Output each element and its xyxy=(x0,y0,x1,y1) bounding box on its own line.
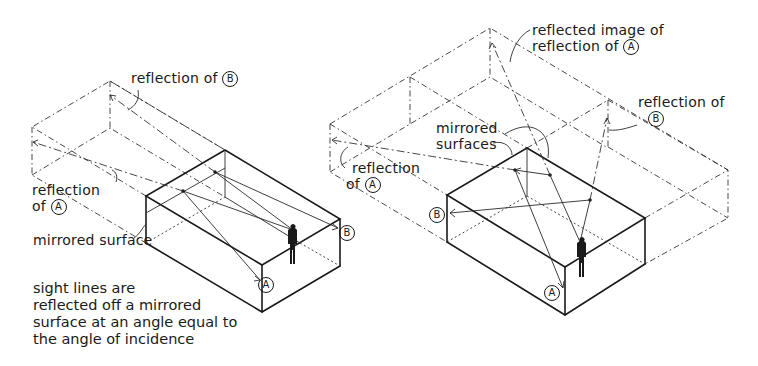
marker-a-icon: A xyxy=(623,39,639,55)
diagram-canvas: reflection of B reflection of A mirrored… xyxy=(0,0,758,366)
label-text: of xyxy=(346,176,360,192)
label-reflected-image-of-reflection: reflected image of reflection of A xyxy=(532,22,664,55)
marker-a-icon: A xyxy=(258,277,274,293)
caption-line: sight lines are xyxy=(33,280,237,297)
label-mirrored-surfaces: mirrored surfaces xyxy=(436,120,498,152)
marker-b-icon: B xyxy=(339,225,355,241)
marker-b-icon: B xyxy=(222,71,238,87)
marker-a-icon: A xyxy=(51,199,67,215)
right-person-icon xyxy=(577,237,586,277)
label-text: of xyxy=(32,198,46,214)
marker-a-icon: A xyxy=(365,177,381,193)
label-text: reflection xyxy=(352,160,420,176)
label-text: reflection of xyxy=(131,70,218,86)
label-text: reflection of xyxy=(532,38,619,54)
marker-b-icon: B xyxy=(648,111,664,127)
label-reflection-of-b-right: reflection of B xyxy=(638,94,725,127)
left-reflection-box xyxy=(32,81,225,243)
label-reflection-of-a-right: reflection of A xyxy=(352,160,420,193)
caption-line: the angle of incidence xyxy=(33,331,237,348)
caption-line: surface at an angle equal to xyxy=(33,314,237,331)
marker-b-icon: B xyxy=(429,207,445,223)
label-reflection-of-b-left: reflection of B xyxy=(131,70,238,87)
right-sight-lines xyxy=(332,30,637,288)
point-b-left: B xyxy=(339,224,355,241)
marker-a-icon: A xyxy=(544,285,560,301)
label-text: mirrored xyxy=(436,120,498,136)
point-a-right: A xyxy=(544,284,560,301)
label-reflection-of-a-left: reflection of A xyxy=(32,182,100,215)
label-text: reflection xyxy=(32,182,100,198)
point-a-left: A xyxy=(258,276,274,293)
label-mirrored-surface: mirrored surface xyxy=(33,232,152,248)
label-text: reflection of xyxy=(638,94,725,110)
caption-sight-lines: sight lines are reflected off a mirrored… xyxy=(33,280,237,348)
label-text: reflected image of xyxy=(532,22,664,38)
right-reflection-boxes xyxy=(330,28,728,264)
label-text: surfaces xyxy=(436,136,498,152)
caption-line: reflected off a mirrored xyxy=(33,297,237,314)
point-b-right: B xyxy=(429,206,445,223)
left-person-icon xyxy=(288,224,297,264)
